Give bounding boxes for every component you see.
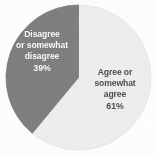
pie-label-agree-value: 61% [84, 101, 146, 112]
pie-label-agree-line1: Agree or [84, 67, 146, 78]
pie-label-disagree-line3: disagree [7, 51, 77, 62]
pie-label-agree: Agree or somewhat agree 61% [84, 67, 146, 112]
pie-label-disagree-value: 39% [7, 63, 77, 74]
pie-label-disagree-line1: Disagree [7, 29, 77, 40]
pie-label-disagree-line2: or somewhat [7, 40, 77, 51]
pie-label-disagree: Disagree or somewhat disagree 39% [7, 29, 77, 74]
pie-label-agree-line2: somewhat [84, 78, 146, 89]
pie-label-agree-line3: agree [84, 89, 146, 100]
pie-chart-figure: Disagree or somewhat disagree 39% Agree … [0, 0, 155, 155]
